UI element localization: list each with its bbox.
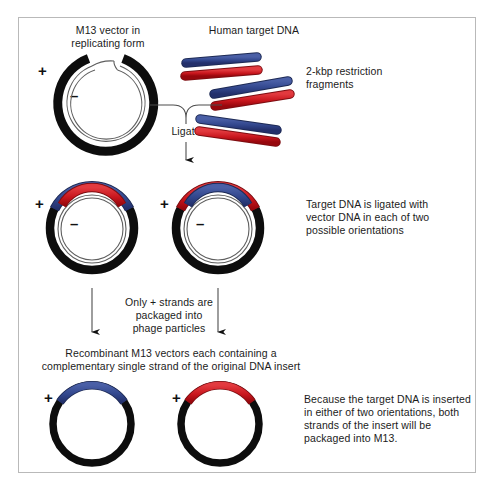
product-circle-right <box>181 385 259 463</box>
product-circle-left <box>53 385 131 463</box>
dna-fragment-2 <box>214 81 290 106</box>
ligated-circle-right <box>176 186 260 270</box>
dna-fragment-1 <box>185 57 258 76</box>
m13-vector-circle <box>58 59 154 152</box>
ligated-circle-left <box>50 186 134 270</box>
figure-root: M13 vector in replicating form Human tar… <box>0 0 497 493</box>
packaging-arrows <box>92 288 218 332</box>
diagram-vector-graphics <box>0 0 497 493</box>
dna-fragment-3 <box>199 119 277 142</box>
